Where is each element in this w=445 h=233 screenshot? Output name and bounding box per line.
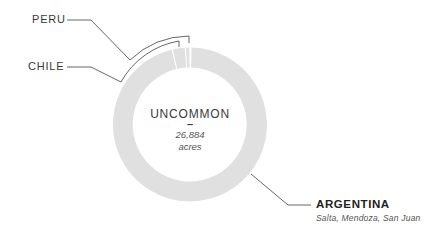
center-value: 26,884 (140, 130, 240, 140)
center-unit: acres (140, 142, 240, 152)
label-chile: CHILE (28, 61, 64, 72)
label-argentina-regions: Salta, Mendoza, San Juan (316, 214, 421, 223)
label-peru: PERU (32, 14, 66, 25)
leader-line-argentina (251, 174, 311, 205)
segment-peru (186, 48, 190, 68)
label-argentina: ARGENTINA (316, 199, 390, 211)
